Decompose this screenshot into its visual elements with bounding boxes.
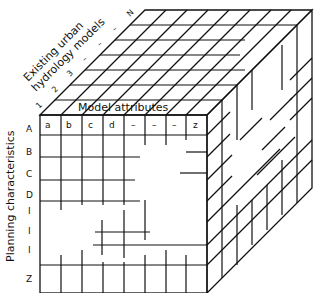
- depth-tick-dash-1: –: [80, 54, 89, 63]
- row-label-a: A: [26, 124, 33, 134]
- depth-tick-3: 3: [65, 68, 75, 78]
- column-label-dash-3: –: [172, 120, 177, 130]
- column-label-a: a: [45, 120, 51, 130]
- depth-tick-dash-2: –: [95, 39, 104, 48]
- row-label-c: C: [26, 169, 32, 179]
- row-label-d: D: [26, 190, 33, 200]
- row-label-z: Z: [26, 274, 32, 284]
- depth-tick-dash-3: –: [110, 24, 119, 33]
- column-label-b: b: [66, 120, 72, 130]
- planning-characteristics-label: Planning characteristics: [4, 130, 17, 262]
- model-attributes-label: Model attributes: [78, 101, 169, 114]
- column-label-c: c: [88, 120, 93, 130]
- depth-tick-n: N: [125, 8, 136, 19]
- cube-outline: [40, 10, 312, 293]
- depth-tick-1: 1: [34, 100, 44, 110]
- depth-tick-2: 2: [50, 84, 60, 94]
- row-label-i-2: I: [28, 226, 31, 236]
- row-label-i-1: I: [28, 206, 31, 216]
- row-label-b: B: [26, 147, 32, 157]
- column-label-z: z: [193, 120, 198, 130]
- column-label-d: d: [109, 120, 115, 130]
- column-label-dash-2: –: [152, 120, 157, 130]
- row-label-i-3: I: [28, 245, 31, 255]
- column-label-dash-1: –: [131, 120, 136, 130]
- hydrology-model-cube-diagram: a b c d – – – z Model attributes A B C D…: [0, 0, 317, 293]
- front-face-grid: [40, 115, 207, 293]
